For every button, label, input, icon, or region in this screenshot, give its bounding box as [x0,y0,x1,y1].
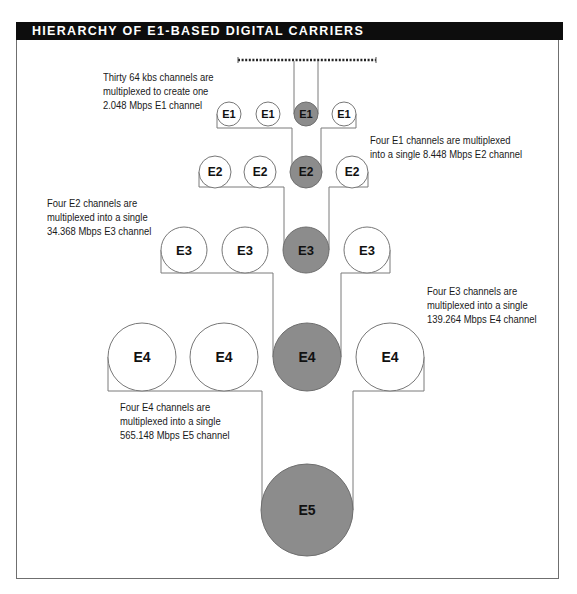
carrier-e1-tributary: E1 [256,102,280,126]
note-line: 565.148 Mbps E5 channel [120,428,230,442]
carrier-label: E2 [253,165,268,179]
note-line: Four E4 channels are [120,400,230,414]
carrier-e2-aggregate: E2 [290,156,322,188]
note-line: 139.264 Mbps E4 channel [427,312,537,326]
note-line: multiplexed into a single [427,298,537,312]
carrier-e2-tributary: E2 [244,156,276,188]
carrier-label: E2 [208,165,223,179]
note-e4: Four E3 channels are multiplexed into a … [427,284,537,326]
carrier-label: E3 [237,243,253,258]
note-line: Four E3 channels are [427,284,537,298]
note-e3: Four E2 channels are multiplexed into a … [47,196,151,238]
note-line: multiplexed into a single [47,210,151,224]
carrier-label: E1 [222,108,235,120]
carrier-e3-aggregate: E3 [283,227,329,273]
carrier-e1-aggregate: E1 [294,102,318,126]
note-line: Four E1 channels are multiplexed [370,133,522,147]
note-line: Thirty 64 kbs channels are [103,70,214,84]
carrier-e1-tributary: E1 [217,102,241,126]
carrier-e4-tributary: E4 [190,323,258,391]
carrier-label: E1 [261,108,274,120]
carrier-e3-tributary: E3 [222,227,268,273]
carrier-label: E2 [299,165,314,179]
carrier-e3-tributary: E3 [344,227,390,273]
note-line: 34.368 Mbps E3 channel [47,224,151,238]
carrier-e4-aggregate: E4 [273,323,341,391]
carrier-label: E3 [298,243,314,258]
note-e5: Four E4 channels are multiplexed into a … [120,400,230,442]
note-line: into a single 8.448 Mbps E2 channel [370,147,522,161]
carrier-label: E1 [337,108,350,120]
carrier-label: E5 [298,502,315,518]
note-e2: Four E1 channels are multiplexed into a … [370,133,522,161]
carrier-e3-tributary: E3 [161,227,207,273]
carrier-label: E4 [215,349,232,365]
carrier-label: E4 [381,349,398,365]
carrier-e4-tributary: E4 [356,323,424,391]
carrier-label: E4 [298,349,315,365]
note-line: Four E2 channels are [47,196,151,210]
carrier-e4-tributary: E4 [108,323,176,391]
note-line: multiplexed to create one [103,84,214,98]
carrier-label: E3 [359,243,375,258]
note-line: 2.048 Mbps E1 channel [103,98,214,112]
carrier-e2-tributary: E2 [199,156,231,188]
carrier-e1-tributary: E1 [332,102,356,126]
carrier-e2-tributary: E2 [336,156,368,188]
note-e1: Thirty 64 kbs channels are multiplexed t… [103,70,214,112]
carrier-e5-aggregate: E5 [261,464,353,556]
note-line: multiplexed into a single [120,414,230,428]
carrier-label: E3 [176,243,192,258]
carrier-label: E4 [133,349,150,365]
carrier-label: E1 [299,108,312,120]
carrier-label: E2 [345,165,360,179]
carrier-circles: E1E1E1E1E2E2E2E2E3E3E3E3E4E4E4E4E5 [108,102,424,556]
